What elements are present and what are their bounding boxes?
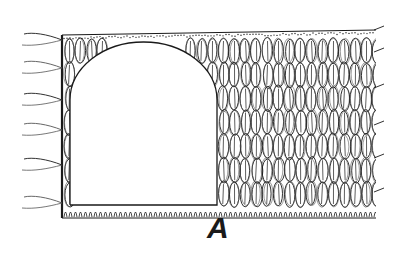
fringe-strand	[22, 68, 62, 73]
fringe-strand	[22, 40, 62, 45]
fringe-strand	[24, 123, 62, 130]
edge-tick	[374, 121, 384, 125]
fringe-strand	[24, 33, 62, 40]
fringe-strand	[24, 93, 62, 100]
edge-tick	[374, 154, 384, 158]
fringe-strand	[22, 130, 62, 135]
fringe-strand	[24, 61, 62, 68]
fringe-strand	[22, 165, 62, 170]
arch-opening	[70, 42, 217, 205]
figure-label: A	[207, 213, 229, 243]
edge-tick	[374, 48, 384, 52]
edge-tick	[374, 188, 384, 192]
fringe-strand	[22, 100, 62, 105]
fringe-strand	[24, 196, 62, 203]
edge-tick	[374, 26, 384, 30]
knitted-fabric-drawing	[0, 0, 408, 254]
fringe-strand	[24, 158, 62, 165]
fringe-strand	[22, 203, 62, 208]
fabric-top-edge	[62, 30, 376, 35]
